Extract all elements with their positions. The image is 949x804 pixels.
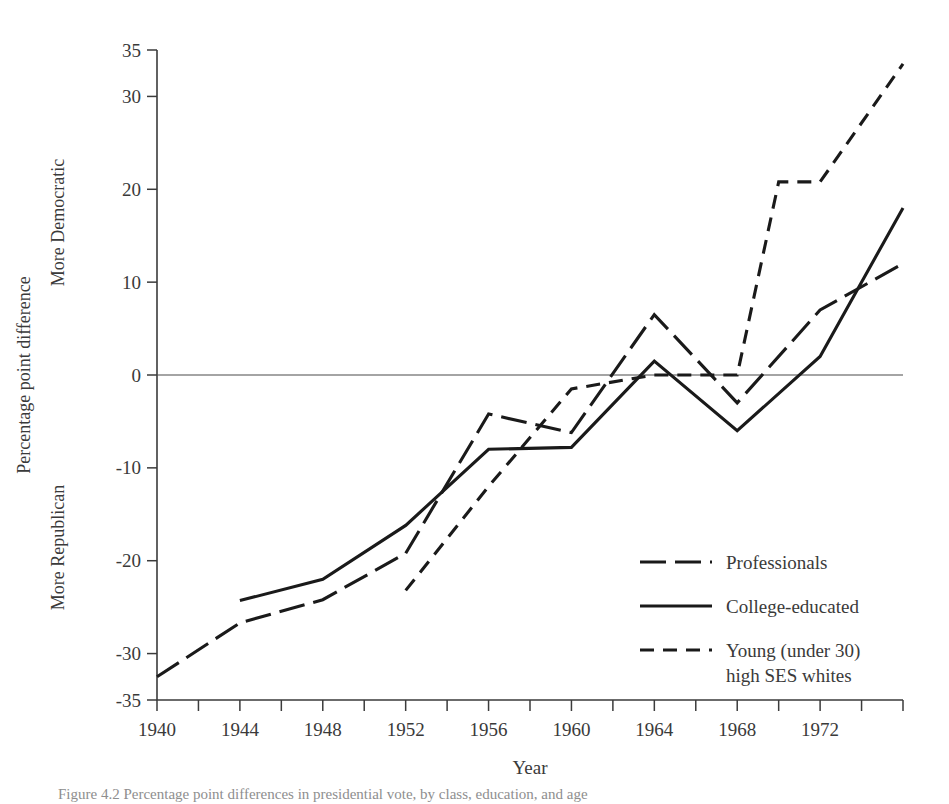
y-tick-label: 35	[122, 40, 141, 61]
y-tick-label: 30	[122, 86, 141, 107]
x-tick-label: 1940	[138, 719, 176, 740]
y-tick-label: -30	[116, 643, 141, 664]
legend-label-2: Young (under 30)	[726, 640, 860, 662]
legend-layer: ProfessionalsCollege-educatedYoung (unde…	[640, 552, 860, 686]
legend-label-1: College-educated	[726, 596, 859, 617]
series-layer	[157, 64, 903, 677]
x-tick-label: 1972	[801, 719, 839, 740]
y-tick-label: 20	[122, 179, 141, 200]
legend-label-2-line2: high SES whites	[726, 665, 852, 686]
y-tick-label: -20	[116, 550, 141, 571]
x-tick-label: 1968	[718, 719, 756, 740]
y-tick-label: -10	[116, 457, 141, 478]
x-tick-label: 1944	[221, 719, 260, 740]
y-axis-upper-label: More Democratic	[48, 159, 68, 286]
y-tick-label: -35	[116, 690, 141, 711]
x-tick-label: 1952	[387, 719, 425, 740]
y-axis-title: Percentage point difference	[14, 276, 34, 474]
y-axis-lower-label: More Republican	[48, 485, 68, 610]
x-tick-label: 1948	[304, 719, 342, 740]
line-chart: 353020100-10-20-30-351940194419481952195…	[0, 0, 949, 804]
legend-label-0: Professionals	[726, 552, 827, 573]
figure-container: 353020100-10-20-30-351940194419481952195…	[0, 0, 949, 804]
figure-caption: Figure 4.2 Percentage point differences …	[58, 786, 938, 803]
x-tick-label: 1964	[635, 719, 674, 740]
y-tick-label: 10	[122, 272, 141, 293]
series-line-1	[240, 208, 903, 601]
series-line-2	[406, 64, 903, 591]
x-tick-label: 1956	[470, 719, 508, 740]
x-axis-title: Year	[512, 757, 548, 778]
y-tick-label: 0	[132, 365, 142, 386]
x-tick-label: 1960	[552, 719, 590, 740]
